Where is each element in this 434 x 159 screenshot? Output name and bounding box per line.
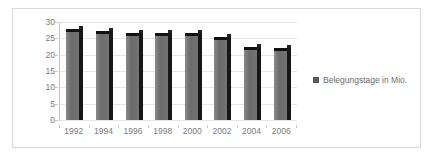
bar-front-face [214,40,227,120]
bar-top-bevel [168,30,172,33]
bar-side-face [139,33,143,120]
bar[interactable] [244,22,261,120]
x-tick-mark [266,125,267,128]
y-tick-label: 30 [21,18,55,27]
x-tick-label: 1996 [118,127,148,136]
x-tick-mark [89,125,90,128]
bar-front-face [185,36,198,120]
bar-side-face [79,29,83,120]
x-axis: 19921994199619982000200220042006 [59,125,297,141]
y-tick-label: 5 [21,99,55,108]
bar[interactable] [185,22,202,120]
chart-frame: 051015202530 199219941996199820002002200… [12,8,421,148]
chart-legend: Belegungstage in Mio. [313,76,407,85]
x-tick-mark [59,125,60,128]
bar-front-face [244,50,257,120]
y-tick-label: 10 [21,83,55,92]
y-axis: 051015202530 [17,22,55,121]
bar[interactable] [274,22,291,120]
x-tick-label: 2000 [178,127,208,136]
bar-top-bevel [198,30,202,33]
bar-front-face [96,34,109,120]
y-tick-mark [55,55,58,56]
y-tick-label: 25 [21,34,55,43]
bar-top-face [96,31,109,34]
bar-front-face [155,36,168,120]
x-tick-mark [118,125,119,128]
y-tick-mark [55,71,58,72]
bar-top-bevel [257,44,261,47]
bar-side-face [287,48,291,120]
bar-side-face [198,33,202,120]
y-tick-mark [55,22,58,23]
y-tick-label: 15 [21,67,55,76]
gridline [60,120,297,121]
bar-top-bevel [139,30,143,33]
bar-front-face [126,36,139,120]
y-tick-label: 0 [21,116,55,125]
bar-top-bevel [287,45,291,48]
x-tick-mark [148,125,149,128]
x-tick-label: 1998 [148,127,178,136]
y-tick-mark [55,38,58,39]
x-tick-mark [207,125,208,128]
bar[interactable] [214,22,231,120]
bar-side-face [109,31,113,120]
bar[interactable] [155,22,172,120]
x-tick-label: 2004 [237,127,267,136]
bar-top-bevel [109,28,113,31]
legend-swatch-icon [313,77,319,83]
x-tick-mark [178,125,179,128]
x-tick-label: 2002 [207,127,237,136]
bar[interactable] [66,22,83,120]
legend-label: Belegungstage in Mio. [323,76,407,85]
y-tick-mark [55,104,58,105]
bar-top-face [244,47,257,50]
bar-top-face [185,33,198,36]
y-tick-mark [55,87,58,88]
bar[interactable] [96,22,113,120]
bar-side-face [227,37,231,120]
bar-front-face [274,51,287,120]
x-tick-label: 2006 [266,127,296,136]
x-tick-mark [237,125,238,128]
bar-top-face [155,33,168,36]
y-tick-mark [55,120,58,121]
x-tick-mark [296,125,297,128]
x-tick-label: 1994 [89,127,119,136]
x-tick-label: 1992 [59,127,89,136]
y-tick-label: 20 [21,50,55,59]
bar[interactable] [126,22,143,120]
plot-area [59,22,297,121]
bar-top-face [274,48,287,51]
bar-side-face [257,47,261,120]
bar-top-face [126,33,139,36]
bar-top-face [214,37,227,40]
bar-top-bevel [79,26,83,29]
bar-front-face [66,32,79,120]
bar-side-face [168,33,172,120]
bar-top-bevel [227,34,231,37]
bar-top-face [66,29,79,32]
